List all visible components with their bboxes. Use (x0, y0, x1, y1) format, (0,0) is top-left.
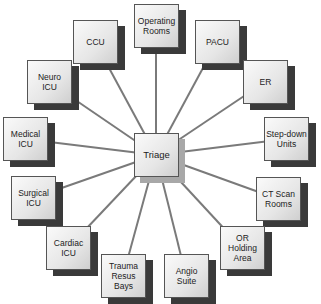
node-step-down-units: Step-down Units (264, 117, 309, 161)
node-label: ER (260, 77, 272, 87)
node-box: Step-down Units (264, 117, 309, 161)
node-box: Medical ICU (3, 117, 48, 161)
node-ccu: CCU (73, 20, 118, 64)
node-box: CCU (73, 20, 118, 64)
node-operating-rooms: Operating Rooms (134, 4, 179, 48)
node-box: Operating Rooms (134, 4, 179, 48)
node-ct-scan-rooms: CT Scan Rooms (256, 177, 301, 221)
node-label: PACU (206, 37, 229, 47)
node-box: PACU (195, 20, 240, 64)
node-label: CT Scan Rooms (262, 189, 295, 209)
node-label: Operating Rooms (138, 16, 175, 36)
node-box: Neuro ICU (27, 60, 72, 104)
node-label: Step-down Units (266, 129, 307, 149)
node-trauma-resus-bays: Trauma Resus Bays (101, 254, 146, 298)
node-label: Triage (143, 150, 170, 160)
node-box: Triage (134, 133, 179, 177)
node-neuro-icu: Neuro ICU (27, 60, 72, 104)
node-angio-suite: Angio Suite (164, 254, 209, 298)
node-label: Trauma Resus Bays (109, 261, 138, 291)
hub-spoke-diagram: Operating RoomsPACUERStep-down UnitsCT S… (0, 0, 321, 304)
node-box: Surgical ICU (11, 176, 56, 220)
node-cardiac-icu: Cardiac ICU (46, 226, 91, 270)
node-er: ER (243, 60, 288, 104)
node-box: CT Scan Rooms (256, 177, 301, 221)
node-box: Angio Suite (164, 254, 209, 298)
node-label: OR Holding Area (228, 233, 257, 263)
node-triage: Triage (134, 133, 179, 177)
node-or-holding-area: OR Holding Area (220, 226, 265, 270)
node-box: Cardiac ICU (46, 226, 91, 270)
node-label: Angio Suite (176, 266, 198, 286)
node-label: Surgical ICU (18, 188, 49, 208)
node-label: CCU (86, 37, 104, 47)
node-medical-icu: Medical ICU (3, 117, 48, 161)
node-box: OR Holding Area (220, 226, 265, 270)
node-label: Cardiac ICU (54, 238, 83, 258)
node-box: ER (243, 60, 288, 104)
node-box: Trauma Resus Bays (101, 254, 146, 298)
node-label: Neuro ICU (38, 72, 61, 92)
node-pacu: PACU (195, 20, 240, 64)
node-label: Medical ICU (11, 129, 40, 149)
node-surgical-icu: Surgical ICU (11, 176, 56, 220)
